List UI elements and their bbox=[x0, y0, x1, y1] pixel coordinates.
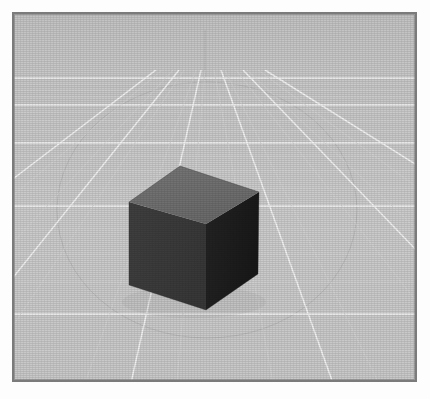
viewport-canvas[interactable] bbox=[14, 14, 415, 380]
sky-background bbox=[14, 14, 415, 78]
screenshot-root bbox=[0, 0, 430, 399]
viewport-frame[interactable] bbox=[12, 12, 417, 382]
